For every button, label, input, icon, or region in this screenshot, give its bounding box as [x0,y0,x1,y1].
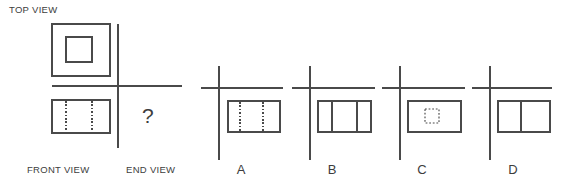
option-a-drawing[interactable] [201,66,283,160]
top-view-drawing [52,24,110,76]
option-b-drawing[interactable] [292,66,375,160]
question-mark: ? [142,105,154,126]
front-view-rectangle [52,100,110,133]
top-view-outer-square [52,24,110,76]
front-view-label: FRONT VIEW [27,165,89,175]
option-d-label[interactable]: D [506,163,520,176]
given-axes [52,24,182,148]
option-c-inner-dotted-square [425,109,439,123]
option-c-rectangle [408,101,461,132]
projection-puzzle-figure: TOP VIEW FRONT VIEW END VIEW ? A B C D [0,0,564,187]
drawing-canvas [0,0,564,187]
option-a-label[interactable]: A [234,163,248,176]
top-view-inner-square [66,37,92,62]
option-b-rectangle [318,101,371,132]
top-view-label: TOP VIEW [9,5,58,15]
option-c-label[interactable]: C [415,163,429,176]
option-c-drawing[interactable] [382,66,465,160]
option-d-drawing[interactable] [472,66,552,160]
option-a-rectangle [228,101,280,132]
option-b-label[interactable]: B [325,163,339,176]
option-d-rectangle [498,101,550,132]
end-view-label: END VIEW [126,165,175,175]
front-view-drawing [52,100,110,133]
